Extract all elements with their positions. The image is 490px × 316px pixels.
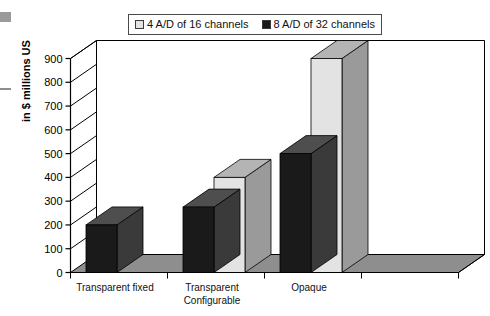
y-tick-300: 300 — [44, 195, 62, 207]
x-axis-category-labels: Transparent fixedTransparentConfigurable… — [76, 282, 327, 306]
y-tick-900: 900 — [44, 53, 62, 65]
x-category-label-2: Transparent — [185, 282, 239, 293]
chart-svg: 9008007006005004003002001000 Transparent… — [0, 0, 490, 316]
x-category-label-1: Transparent fixed — [76, 282, 153, 293]
y-tick-100: 100 — [44, 243, 62, 255]
y-tick-400: 400 — [44, 171, 62, 183]
column-chart-3d: 9008007006005004003002001000 Transparent… — [0, 0, 490, 316]
x-category-label-3: Opaque — [291, 282, 327, 293]
y-tick-200: 200 — [44, 219, 62, 231]
bar-dark-2 — [183, 189, 240, 272]
y-tick-700: 700 — [44, 100, 62, 112]
y-tick-500: 500 — [44, 148, 62, 160]
bar-dark-3 — [280, 136, 337, 273]
y-tick-800: 800 — [44, 76, 62, 88]
y-axis-tick-labels: 9008007006005004003002001000 — [44, 53, 62, 279]
y-tick-0: 0 — [56, 267, 62, 279]
y-tick-600: 600 — [44, 124, 62, 136]
x-category-label-2-line2: Configurable — [184, 295, 241, 306]
